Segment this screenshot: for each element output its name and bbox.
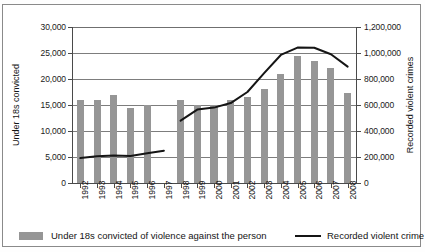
bar xyxy=(110,95,117,183)
left-tick-mark xyxy=(68,183,72,184)
bar xyxy=(261,89,268,183)
right-tick-mark xyxy=(357,53,361,54)
left-tick-label: 5,000 xyxy=(22,153,66,162)
left-tick-label: 15,000 xyxy=(22,101,66,110)
left-tick-label: 25,000 xyxy=(22,49,66,58)
x-tick-label-text: 1993 xyxy=(97,181,108,200)
right-tick-mark xyxy=(357,157,361,158)
right-tick-mark xyxy=(357,131,361,132)
bar xyxy=(77,100,84,183)
x-tick-label-text: 2001 xyxy=(231,181,242,200)
right-tick-label: 800,000 xyxy=(364,75,420,84)
right-tick-mark xyxy=(357,79,361,80)
bar xyxy=(94,100,101,183)
bar-series xyxy=(72,27,356,183)
bar xyxy=(194,105,201,183)
x-tick-label-text: 1996 xyxy=(147,181,158,200)
x-tick-label-text: 2005 xyxy=(298,181,309,200)
left-tick-label: 20,000 xyxy=(22,75,66,84)
right-tick-label: 1,200,000 xyxy=(364,23,420,32)
bar xyxy=(127,108,134,183)
bar xyxy=(311,61,318,183)
legend-line-swatch xyxy=(295,235,321,237)
bar xyxy=(244,97,251,183)
bar xyxy=(210,105,217,183)
chart-frame: Under 18s convicted Recorded violent cri… xyxy=(2,4,421,247)
bar xyxy=(277,74,284,183)
right-tick-label: 600,000 xyxy=(364,101,420,110)
right-tick-mark xyxy=(357,105,361,106)
x-tick-label-text: 2007 xyxy=(331,181,342,200)
right-tick-label: 1,000,000 xyxy=(364,49,420,58)
x-tick-label-text: 1994 xyxy=(114,181,125,200)
x-tick-label-text: 1999 xyxy=(197,181,208,200)
right-tick-mark xyxy=(357,27,361,28)
left-axis-title: Under 18s convicted xyxy=(9,45,23,165)
x-tick-label-text: 2003 xyxy=(264,181,275,200)
x-tick-label-text: 1997 xyxy=(164,181,175,200)
chart-legend: Under 18s convicted of violence against … xyxy=(19,229,411,245)
left-axis-title-text: Under 18s convicted xyxy=(11,64,21,146)
legend-bar-swatch xyxy=(19,232,43,240)
legend-line-label: Recorded violent crime xyxy=(327,230,424,241)
x-tick-label-text: 2000 xyxy=(214,181,225,200)
bar xyxy=(177,100,184,183)
x-tick-label-text: 2006 xyxy=(314,181,325,200)
left-tick-label: 0 xyxy=(22,179,66,188)
chart-screenshot: Under 18s convicted Recorded violent cri… xyxy=(0,0,425,252)
right-tick-label: 200,000 xyxy=(364,153,420,162)
left-tick-label: 10,000 xyxy=(22,127,66,136)
x-tick-label-text: 1995 xyxy=(130,181,141,200)
bar xyxy=(144,105,151,183)
x-tick-label-text: 1998 xyxy=(181,181,192,200)
bar xyxy=(294,56,301,183)
x-tick-label-text: 1992 xyxy=(80,181,91,200)
bar xyxy=(344,93,351,183)
legend-bar-label: Under 18s convicted of violence against … xyxy=(51,230,266,241)
right-tick-label: 400,000 xyxy=(364,127,420,136)
x-tick-label-text: 2002 xyxy=(247,181,258,200)
bar xyxy=(327,68,334,183)
bar xyxy=(227,100,234,183)
x-tick-label-text: 2008 xyxy=(348,181,359,200)
left-tick-label: 30,000 xyxy=(22,23,66,32)
x-tick-label-text: 2004 xyxy=(281,181,292,200)
right-tick-label: 0 xyxy=(364,179,420,188)
